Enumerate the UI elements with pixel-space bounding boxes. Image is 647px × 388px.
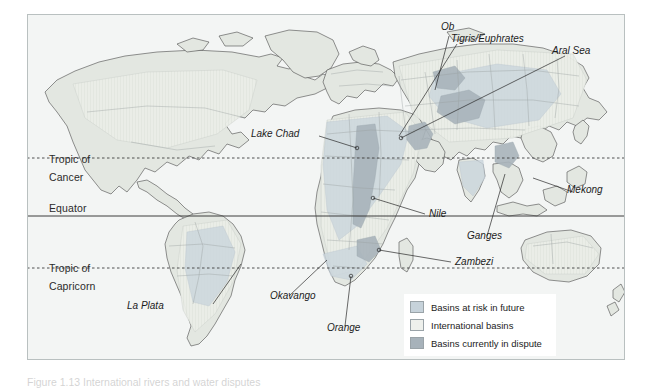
legend-item-international-basins: International basins <box>410 316 550 334</box>
map-legend: Basins at risk in future International b… <box>404 294 556 356</box>
feature-label-tigris-euphrates: Tigris/Euphrates <box>451 33 524 44</box>
legend-swatch-international-basins <box>410 319 424 331</box>
tropic-of-cancer-label-line1: Tropic of <box>49 153 90 165</box>
legend-item-basins-at-risk: Basins at risk in future <box>410 298 550 316</box>
legend-label-basins-in-dispute: Basins currently in dispute <box>431 338 542 349</box>
feature-label-lake-chad: Lake Chad <box>251 128 299 139</box>
tropic-of-capricorn-label-line1: Tropic of <box>49 262 90 274</box>
legend-swatch-basins-at-risk <box>410 301 424 313</box>
world-water-basins-figure: Tropic of Cancer Equator Tropic of Capri… <box>0 0 647 388</box>
legend-swatch-basins-in-dispute <box>410 337 424 349</box>
legend-label-basins-at-risk: Basins at risk in future <box>431 302 524 313</box>
feature-label-okavango: Okavango <box>270 290 316 301</box>
legend-item-basins-in-dispute: Basins currently in dispute <box>410 334 550 352</box>
feature-label-nile: Nile <box>429 208 446 219</box>
feature-label-mekong: Mekong <box>567 184 603 195</box>
feature-label-aral-sea: Aral Sea <box>552 45 590 56</box>
equator-label: Equator <box>49 202 86 214</box>
feature-label-zambezi: Zambezi <box>455 256 493 267</box>
figure-caption: Figure 1.13 International rivers and wat… <box>27 376 617 388</box>
feature-label-ob: Ob <box>441 21 454 32</box>
feature-label-ganges: Ganges <box>467 230 502 241</box>
tropic-of-capricorn-label-line2: Capricorn <box>49 280 95 292</box>
feature-label-orange: Orange <box>327 322 360 333</box>
legend-label-international-basins: International basins <box>431 320 513 331</box>
feature-label-la-plata: La Plata <box>127 300 164 311</box>
tropic-of-cancer-label-line2: Cancer <box>49 171 83 183</box>
